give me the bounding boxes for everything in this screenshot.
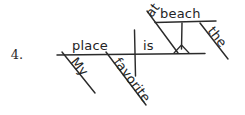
word-modifier-favorite: favorite [111,55,154,105]
subject-verb-divider [135,30,136,76]
item-number: 4. [11,47,23,62]
diagram-svg: 4. place is My favorite at beach the [0,0,245,115]
word-verb: is [143,38,154,53]
prepositional-object-line [155,21,216,23]
word-subject: place [72,38,108,53]
word-prep-object: beach [160,6,201,21]
word-modifier-my: My [68,54,92,79]
sentence-diagram-canvas: 4. place is My favorite at beach the [0,0,245,115]
word-modifier-the: the [205,24,230,51]
